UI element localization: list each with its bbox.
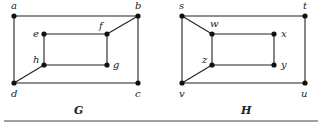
vertex-b [135, 13, 140, 18]
vertex-label-g: g [113, 59, 119, 70]
graph-label-h: H [240, 104, 252, 117]
edge-v-z [182, 65, 212, 83]
graph-h: stuvwxyzH [179, 0, 308, 117]
vertex-t [302, 13, 307, 18]
vertex-label-w: w [210, 18, 219, 29]
graph-diagram: abcdefghG stuvwxyzH [0, 0, 322, 126]
vertex-c [135, 80, 140, 85]
graph-label-g: G [74, 104, 83, 117]
vertex-label-d: d [11, 88, 17, 99]
vertex-label-f: f [98, 20, 105, 31]
vertex-label-s: s [179, 0, 184, 11]
vertex-label-x: x [281, 28, 287, 39]
vertex-label-t: t [303, 0, 308, 11]
vertex-label-y: y [280, 59, 287, 70]
vertex-label-c: c [135, 88, 141, 99]
vertex-g [104, 62, 109, 67]
vertex-z [209, 62, 214, 67]
vertex-d [11, 80, 16, 85]
vertex-f [104, 31, 109, 36]
vertex-label-b: b [135, 0, 141, 11]
vertex-label-a: a [11, 0, 17, 11]
vertex-label-u: u [301, 88, 307, 99]
graph-g: abcdefghG [11, 0, 141, 117]
edge-d-h [14, 65, 44, 83]
vertex-v [179, 80, 184, 85]
vertex-label-z: z [201, 54, 208, 65]
vertex-s [179, 13, 184, 18]
vertex-w [209, 31, 214, 36]
vertex-x [271, 31, 276, 36]
edge-s-w [182, 16, 212, 34]
vertex-a [11, 13, 16, 18]
vertex-label-e: e [33, 28, 39, 39]
vertex-label-h: h [33, 54, 39, 65]
vertex-u [302, 80, 307, 85]
vertex-label-v: v [179, 88, 185, 99]
vertex-e [41, 31, 46, 36]
vertex-h [41, 62, 46, 67]
edge-b-f [107, 16, 138, 34]
vertex-y [271, 62, 276, 67]
